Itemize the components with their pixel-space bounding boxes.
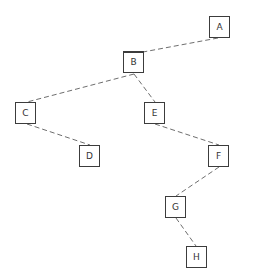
- node-label: B: [130, 58, 136, 67]
- edge-layer: [0, 0, 254, 278]
- node-label: D: [86, 152, 93, 161]
- node-b: B: [123, 51, 144, 73]
- edge-a-b: [143, 38, 218, 52]
- edge-b-e: [134, 74, 155, 102]
- node-e: E: [144, 102, 165, 124]
- edge-e-f: [155, 124, 219, 145]
- node-label: F: [216, 152, 221, 161]
- tree-diagram: A B C E D F G H: [0, 0, 254, 278]
- node-f: F: [208, 145, 229, 167]
- node-a: A: [209, 16, 230, 38]
- node-d: D: [79, 145, 100, 167]
- node-label: H: [193, 253, 200, 262]
- node-h: H: [186, 246, 207, 268]
- node-g: G: [165, 196, 186, 218]
- edge-g-h: [176, 218, 196, 246]
- node-label: C: [22, 109, 28, 118]
- node-label: E: [152, 109, 158, 118]
- edge-b-c: [27, 74, 134, 102]
- node-label: G: [172, 203, 179, 212]
- node-c: C: [15, 102, 36, 124]
- node-label: A: [216, 23, 222, 32]
- edge-c-d: [27, 124, 90, 145]
- edge-f-g: [176, 167, 219, 196]
